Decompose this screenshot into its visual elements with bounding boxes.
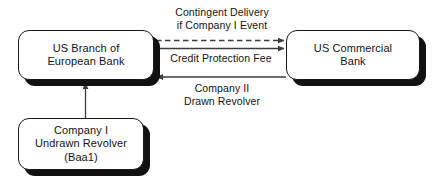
node-label-us-commercial-bank: US Commercial Bank — [314, 42, 392, 69]
node-label-company-i-undrawn-revolver: Company I Undrawn Revolver (Baa1) — [35, 124, 127, 165]
edge-label-contingent-delivery: Contingent Delivery if Company I Event — [158, 6, 286, 31]
edge-label-credit-protection-fee: Credit Protection Fee — [156, 52, 286, 65]
node-us-commercial-bank[interactable]: US Commercial Bank — [286, 30, 420, 80]
diagram-canvas: US Branch of European Bank US Commercial… — [0, 0, 437, 178]
node-company-i-undrawn-revolver[interactable]: Company I Undrawn Revolver (Baa1) — [18, 118, 144, 170]
node-us-branch-european-bank[interactable]: US Branch of European Bank — [18, 30, 154, 80]
node-label-us-branch-european-bank: US Branch of European Bank — [47, 42, 124, 69]
edge-label-company-ii-drawn-revolver: Company II Drawn Revolver — [158, 82, 286, 107]
